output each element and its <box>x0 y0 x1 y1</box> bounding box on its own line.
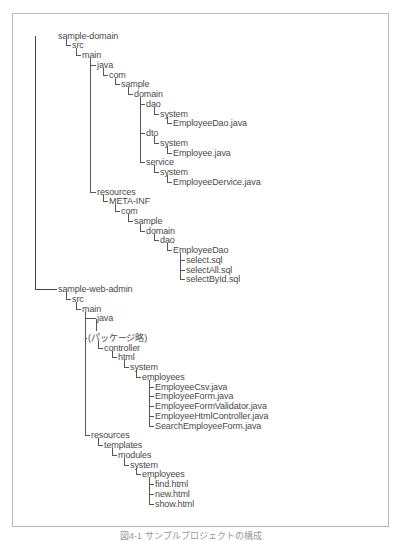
tree-connector-vertical <box>140 97 141 162</box>
tree-folder: java <box>97 313 113 323</box>
tree-connector-horizontal <box>149 484 154 485</box>
tree-folder: system <box>130 362 158 372</box>
tree-folder: modules <box>118 450 151 460</box>
tree-folder: employees <box>142 469 185 479</box>
tree-folder: com <box>109 70 126 80</box>
tree-connector-horizontal <box>90 192 96 193</box>
tree-connector-horizontal <box>115 84 120 85</box>
tree-connector-horizontal <box>154 114 159 115</box>
tree-connector-horizontal <box>149 396 154 397</box>
tree-connector-horizontal <box>140 104 145 105</box>
tree-connector-horizontal <box>167 123 172 124</box>
tree-file: EmployeeFormValidator.java <box>155 401 267 411</box>
tree-file: new.html <box>155 489 190 499</box>
tree-connector-horizontal <box>85 338 87 339</box>
tree-file: SearchEmployeeForm.java <box>155 421 261 431</box>
tree-file: selectAll.sql <box>186 265 232 275</box>
tree-folder: controller <box>104 343 140 353</box>
tree-connector-horizontal <box>85 435 90 436</box>
tree-folder: domain <box>134 89 163 99</box>
tree-folder: java <box>97 60 113 70</box>
tree-folder: system <box>160 138 188 148</box>
tree-connector-vertical <box>35 36 36 290</box>
tree-connector-horizontal <box>98 445 103 446</box>
tree-folder: resources <box>97 187 136 197</box>
tree-connector-horizontal <box>149 426 154 427</box>
tree-connector-horizontal <box>136 377 141 378</box>
tree-connector-horizontal <box>180 279 185 280</box>
tree-file: EmployeeCsv.java <box>155 382 227 392</box>
tree-connector-horizontal <box>128 221 133 222</box>
tree-file: EmployeeForm.java <box>155 391 233 401</box>
tree-file: show.html <box>155 499 194 509</box>
tree-connector-horizontal <box>103 75 108 76</box>
tree-file: selectById.sql <box>186 274 240 284</box>
tree-folder: sample-domain <box>58 31 118 41</box>
tree-connector-vertical <box>85 312 86 436</box>
tree-connector-horizontal <box>140 231 145 232</box>
tree-connector-horizontal <box>76 55 81 56</box>
tree-connector-horizontal <box>154 240 159 241</box>
tree-connector-horizontal <box>154 172 159 173</box>
tree-connector-horizontal <box>85 318 96 319</box>
tree-file: EmployeeDao.java <box>173 118 247 128</box>
tree-connector-horizontal <box>136 474 141 475</box>
tree-connector-horizontal <box>35 289 57 290</box>
tree-folder: html <box>118 352 135 362</box>
tree-connector-horizontal <box>112 357 117 358</box>
tree-folder: EmployeeDao <box>173 245 228 255</box>
tree-folder: dao <box>146 99 161 109</box>
tree-file: Employee.java <box>173 148 231 158</box>
tree-folder: src <box>72 294 84 304</box>
tree-connector-horizontal <box>90 65 96 66</box>
tree-connector-horizontal <box>180 270 185 271</box>
tree-folder: system <box>130 460 158 470</box>
tree-connector-horizontal <box>128 94 133 95</box>
tree-connector-horizontal <box>140 133 145 134</box>
tree-file: EmployeeHtmlController.java <box>155 411 268 421</box>
tree-connector-horizontal <box>149 406 154 407</box>
tree-folder: employees <box>142 372 185 382</box>
tree-folder: dto <box>146 128 158 138</box>
tree-connector-horizontal <box>124 465 129 466</box>
tree-connector-horizontal <box>103 201 108 202</box>
tree-folder: META-INF <box>109 196 150 206</box>
tree-connector-horizontal <box>66 45 71 46</box>
tree-connector-horizontal <box>167 153 172 154</box>
tree-folder: resources <box>91 430 130 440</box>
tree-connector-horizontal <box>149 387 154 388</box>
tree-connector-horizontal <box>112 455 117 456</box>
tree-connector-horizontal <box>149 494 154 495</box>
tree-folder: templates <box>104 440 142 450</box>
tree-folder: service <box>146 157 174 167</box>
tree-connector-horizontal <box>167 182 172 183</box>
tree-connector-horizontal <box>167 250 172 251</box>
tree-connector-horizontal <box>154 143 159 144</box>
tree-connector-horizontal <box>76 309 81 310</box>
tree-connector-vertical <box>90 58 91 192</box>
tree-connector-horizontal <box>98 348 103 349</box>
tree-file: EmployeeDervice.java <box>173 177 261 187</box>
tree-folder: sample-web-admin <box>58 284 132 294</box>
tree-connector-horizontal <box>149 416 154 417</box>
tree-connector-vertical <box>149 477 150 503</box>
tree-connector-horizontal <box>124 367 129 368</box>
tree-file: select.sql <box>186 255 223 265</box>
tree-folder: sample <box>134 216 162 226</box>
figure-caption: 図4-1 サンプルプロジェクトの構成 <box>120 531 262 541</box>
tree-connector-horizontal <box>115 211 120 212</box>
tree-connector-horizontal <box>149 504 154 505</box>
tree-connector-horizontal <box>180 260 185 261</box>
tree-file: find.html <box>155 479 188 489</box>
tree-folder: src <box>72 40 84 50</box>
tree-folder: dao <box>160 235 175 245</box>
tree-folder: sample <box>121 79 149 89</box>
tree-folder: main <box>82 50 101 60</box>
tree-connector-vertical <box>180 253 181 279</box>
tree-folder: (パッケージ略) <box>88 333 147 343</box>
tree-folder: system <box>160 109 188 119</box>
tree-folder: com <box>121 206 138 216</box>
tree-connector-horizontal <box>140 162 145 163</box>
tree-folder: system <box>160 167 188 177</box>
tree-connector-horizontal <box>66 299 71 300</box>
